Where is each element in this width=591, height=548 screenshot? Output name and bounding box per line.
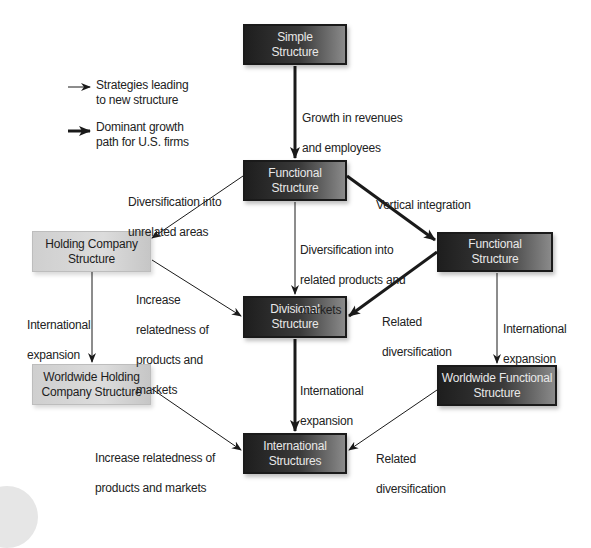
edge-label-international-center: International expansion [300,369,363,444]
edge-label-unrelated: Diversification into unrelated areas [128,180,221,255]
edge-label-related-diversification-bottom: Related diversification [376,437,446,512]
edge-label-growth: Growth in revenues and employees [302,96,402,171]
edge-label-related-diversification-right: Related diversification [382,300,452,375]
legend-thick-label: Dominant growth path for U.S. firms [96,120,189,150]
edge-label-international-left: International expansion [27,303,90,378]
edge-label-vertical-integration: Vertical integration [376,183,471,228]
edge-label-increase-relatedness-bottom: Increase relatedness of products and mar… [95,436,215,511]
node-simple-structure: Simple Structure [243,24,347,65]
edge-label-international-right: International expansion [503,307,566,382]
legend-thin-label: Strategies leading to new structure [96,78,188,108]
edge-label-increase-relatedness-left: Increase relatedness of products and mar… [136,278,209,413]
node-functional-structure-right: Functional Structure [437,232,553,272]
